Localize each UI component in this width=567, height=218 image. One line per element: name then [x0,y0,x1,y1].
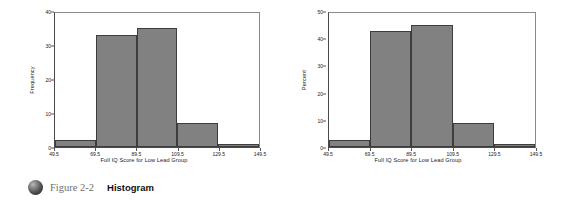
histogram-bar [177,123,218,147]
figure-pair-page: Frequency 010203040 49.569.589.5109.5129… [0,0,567,218]
histogram-bar [218,144,259,147]
figure-title-line-1: Histogram [107,182,154,193]
plot-frame [328,12,536,148]
figure-number: Figure 2-2 [50,180,94,195]
y-axis-ticks: 01020304050 [309,12,326,148]
y-tick-mark [323,12,326,13]
y-tick-mark [323,66,326,67]
bars-group [329,13,535,147]
figure-caption: Figure 2-2 Histogram [28,180,154,195]
sphere-bullet-icon [28,180,43,195]
histogram-bar [96,35,137,147]
relative-frequency-histogram-plot: Percent 01020304050 49.569.589.5109.5129… [298,12,538,164]
x-axis-title: Full IQ Score for Low Lead Group [26,157,262,163]
histogram-bar [411,25,452,147]
y-tick-mark [323,39,326,40]
histogram-bar [370,31,411,147]
figure-title: Histogram [107,180,154,195]
y-tick-mark [323,120,326,121]
histogram-bar [494,144,535,147]
histogram-bar [137,28,178,147]
x-axis-title: Full IQ Score for Low Lead Group [298,157,538,163]
figure-2-2-block: Frequency 010203040 49.569.589.5109.5129… [0,0,284,218]
bars-group [55,13,259,147]
plot-frame [54,12,260,148]
frequency-histogram-plot: Frequency 010203040 49.569.589.5109.5129… [26,12,262,164]
y-axis-ticks: 010203040 [37,12,54,148]
histogram-bar [453,123,494,147]
histogram-bar [55,140,96,147]
y-tick-mark [323,93,326,94]
histogram-bar [329,140,370,147]
figure-2-3-block: Percent 01020304050 49.569.589.5109.5129… [284,0,567,218]
